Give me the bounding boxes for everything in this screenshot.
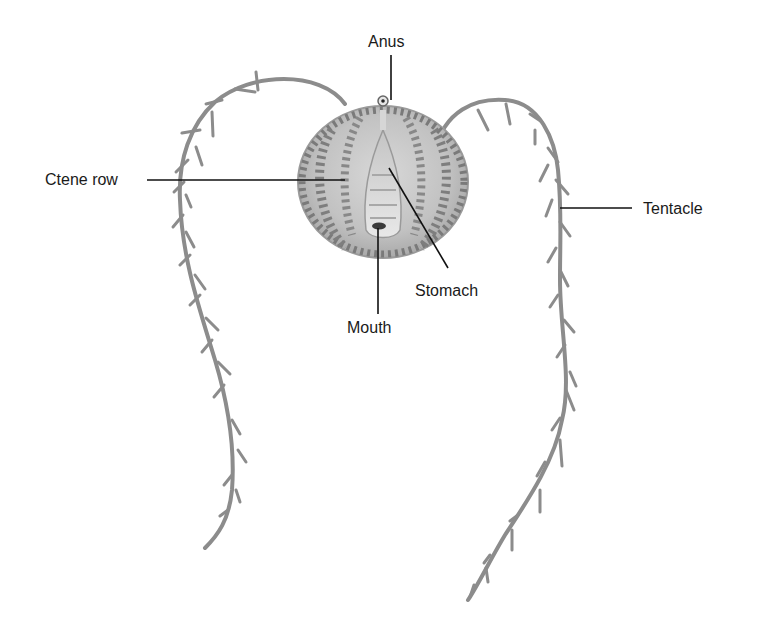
label-stomach: Stomach xyxy=(415,283,478,299)
label-mouth: Mouth xyxy=(347,320,391,336)
ctenophore-body xyxy=(298,96,468,258)
label-ctene-row: Ctene row xyxy=(45,172,118,188)
ctenophore-diagram xyxy=(0,0,768,630)
label-anus: Anus xyxy=(368,34,404,50)
label-tentacle: Tentacle xyxy=(643,201,703,217)
